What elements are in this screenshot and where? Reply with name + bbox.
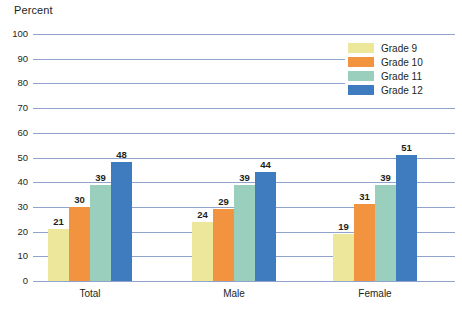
x-axis-category-label: Total [79, 288, 100, 300]
y-axis-tick-label: 0 [23, 276, 28, 286]
bar[interactable] [354, 204, 375, 281]
bar[interactable] [192, 222, 213, 281]
bar[interactable] [111, 162, 132, 281]
legend-swatch-icon [348, 57, 374, 67]
legend-item-label: Grade 10 [381, 57, 423, 68]
bar-value-label: 48 [116, 150, 127, 160]
legend-item[interactable]: Grade 9 [348, 41, 455, 55]
legend-item[interactable]: Grade 12 [348, 83, 455, 97]
bar[interactable] [234, 185, 255, 281]
bar[interactable] [333, 234, 354, 281]
bar-chart: Percent 01020304050607080901002130394824… [0, 0, 462, 312]
legend: Grade 9Grade 10Grade 11Grade 12 [345, 38, 457, 100]
y-axis-tick-label: 30 [17, 202, 28, 212]
legend-swatch-icon [348, 43, 374, 53]
y-axis-tick-label: 10 [17, 251, 28, 261]
x-axis-category-label: Female [358, 288, 391, 300]
bar-group: 21303948 [48, 34, 132, 281]
legend-item[interactable]: Grade 10 [348, 55, 455, 69]
legend-item-label: Grade 12 [381, 85, 423, 96]
bar-value-label: 30 [74, 195, 85, 205]
bar-value-label: 29 [218, 197, 229, 207]
bar[interactable] [90, 185, 111, 281]
bar[interactable] [375, 185, 396, 281]
bar[interactable] [213, 209, 234, 281]
bar[interactable] [255, 172, 276, 281]
legend-item-label: Grade 9 [381, 43, 417, 54]
bar-value-label: 39 [95, 173, 106, 183]
y-axis-tick-label: 100 [12, 29, 28, 39]
legend-swatch-icon [348, 85, 374, 95]
axis-baseline [33, 281, 455, 282]
bar-group: 24293944 [192, 34, 276, 281]
bar-value-label: 31 [359, 192, 370, 202]
y-axis-tick-label: 60 [17, 128, 28, 138]
bar-value-label: 39 [380, 173, 391, 183]
legend-item[interactable]: Grade 11 [348, 69, 455, 83]
bar-value-label: 51 [401, 143, 412, 153]
y-axis-tick-label: 90 [17, 54, 28, 64]
y-axis-tick-label: 70 [17, 103, 28, 113]
bar[interactable] [69, 207, 90, 281]
y-axis-title: Percent [14, 4, 53, 17]
bar-value-label: 19 [338, 222, 349, 232]
bar[interactable] [396, 155, 417, 281]
bar-value-label: 24 [197, 210, 208, 220]
y-axis-tick-label: 20 [17, 227, 28, 237]
bar-value-label: 21 [53, 217, 64, 227]
bar[interactable] [48, 229, 69, 281]
bar-value-label: 44 [260, 160, 271, 170]
legend-item-label: Grade 11 [381, 71, 422, 82]
y-axis-tick-label: 80 [17, 78, 28, 88]
x-axis-category-label: Male [223, 288, 245, 300]
y-axis-tick-label: 40 [17, 177, 28, 187]
bar-value-label: 39 [239, 173, 250, 183]
legend-swatch-icon [348, 71, 374, 81]
y-axis-tick-label: 50 [17, 153, 28, 163]
